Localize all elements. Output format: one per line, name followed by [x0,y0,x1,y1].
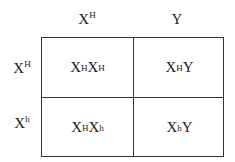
allele-2: Y [182,119,193,136]
row-header-1: XH [13,61,30,76]
allele-2: Y [183,59,194,76]
cell-r2-c2: XhY [134,98,225,157]
allele-1: X [71,119,82,136]
cell-r1-c1: XHXH [42,38,133,97]
column-header-2: Y [172,12,183,27]
cell-r2-c1: XHXh [42,98,133,157]
header-base: X [13,60,24,76]
header-base: X [78,11,89,27]
allele-1: X [166,119,177,136]
header-base: Y [172,11,183,27]
header-sup: H [89,10,96,20]
allele-1: X [70,59,81,76]
cell-r1-c2: XHY [134,38,225,97]
header-base: X [14,115,25,131]
punnett-grid: XHXH XHY XHXh XhY [41,37,224,157]
allele-1: X [165,59,176,76]
row-header-2: Xh [14,116,29,131]
allele-2: X [88,59,99,76]
column-header-1: XH [78,12,95,27]
allele-2: X [89,119,100,136]
header-sup: H [24,59,31,69]
header-sup: h [25,114,30,124]
